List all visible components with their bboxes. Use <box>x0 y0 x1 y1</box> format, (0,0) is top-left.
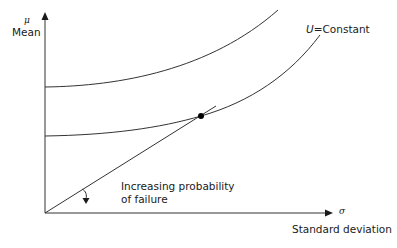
y-axis-symbol: μ <box>24 16 30 25</box>
rotation-arrowhead-icon <box>83 198 90 204</box>
annotation-line-2: of failure <box>121 194 168 205</box>
tangent-point <box>198 113 204 119</box>
curve-label: U=Constant <box>306 24 370 35</box>
rotation-arrow-shaft <box>82 189 86 199</box>
utility-variable: U <box>306 23 314 35</box>
x-axis-symbol: σ <box>339 207 345 216</box>
indifference-curve-lower <box>45 35 320 136</box>
x-axis-arrow-icon <box>325 210 333 217</box>
annotation-line-1: Increasing probability <box>121 181 235 192</box>
equals-sign: = <box>314 23 323 35</box>
mean-variance-diagram <box>0 0 397 248</box>
indifference-curve-upper <box>45 10 278 87</box>
constant-text: Constant <box>323 23 370 35</box>
x-axis-label: Standard deviation <box>292 224 392 235</box>
y-axis-arrow-icon <box>42 12 49 20</box>
y-axis-label: Mean <box>12 27 41 38</box>
